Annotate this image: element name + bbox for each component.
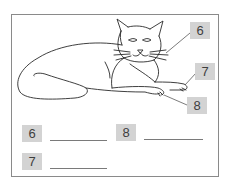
answer-blank-7[interactable] bbox=[50, 168, 107, 169]
answer-tag-8: 8 bbox=[116, 124, 136, 141]
callout-tag-7: 7 bbox=[195, 63, 215, 80]
callout-line-8 bbox=[164, 95, 187, 105]
answer-blank-6[interactable] bbox=[50, 140, 107, 141]
answer-tag-6: 6 bbox=[22, 125, 42, 142]
callout-tag-6: 6 bbox=[190, 22, 210, 39]
callout-tag-8: 8 bbox=[187, 97, 207, 114]
answer-tag-7: 7 bbox=[22, 153, 42, 170]
callout-line-6 bbox=[166, 33, 190, 53]
answer-blank-8[interactable] bbox=[144, 139, 203, 140]
